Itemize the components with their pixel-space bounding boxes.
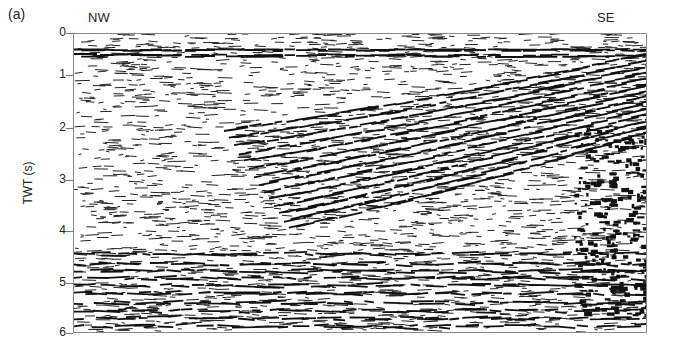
panel-label: (a) bbox=[8, 6, 25, 22]
y-tick bbox=[66, 128, 73, 129]
seismic-traces bbox=[74, 34, 646, 332]
y-tick-label-0: 0 bbox=[52, 25, 66, 39]
y-tick bbox=[66, 180, 73, 181]
direction-label-se: SE bbox=[597, 10, 614, 25]
y-tick bbox=[66, 75, 73, 76]
y-tick bbox=[66, 283, 73, 284]
y-tick bbox=[66, 231, 73, 232]
y-tick-label-2: 2 bbox=[52, 120, 66, 134]
direction-label-nw: NW bbox=[88, 10, 110, 25]
y-tick bbox=[66, 333, 73, 334]
y-tick-label-5: 5 bbox=[52, 275, 66, 289]
y-axis-label: TWT (s) bbox=[21, 153, 35, 213]
y-tick-label-6: 6 bbox=[52, 325, 66, 339]
y-tick bbox=[66, 33, 73, 34]
y-tick-label-1: 1 bbox=[52, 67, 66, 81]
y-tick-label-4: 4 bbox=[52, 223, 66, 237]
y-tick-label-3: 3 bbox=[52, 172, 66, 186]
seismic-section-plot bbox=[73, 33, 647, 333]
